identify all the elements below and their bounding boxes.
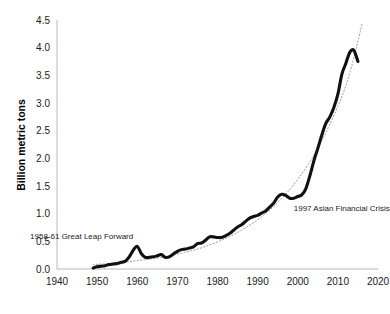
chart-annotation-label: 1997 Asian Financial Crisis (294, 204, 390, 213)
x-tick-label: 1950 (86, 276, 109, 287)
y-tick-label: 0.0 (36, 264, 50, 275)
y-tick-label: 1.0 (36, 208, 50, 219)
y-tick-label: 1.5 (36, 181, 50, 192)
x-tick-label: 1940 (46, 276, 69, 287)
x-tick-label: 1970 (166, 276, 189, 287)
chart-annotation-label: 1958-61 Great Leap Forward (30, 232, 133, 241)
x-tick-label: 1960 (126, 276, 149, 287)
x-axis-tick-labels: 194019501960197019801990200020102020 (46, 276, 390, 287)
x-tick-label: 1980 (206, 276, 229, 287)
x-tick-label: 2020 (367, 276, 390, 287)
x-tick-label: 2010 (327, 276, 350, 287)
emissions-line-chart: 0.00.51.01.52.02.53.03.54.04.5 194019501… (0, 0, 390, 314)
y-tick-label: 4.5 (36, 15, 50, 26)
chart-canvas: 0.00.51.01.52.02.53.03.54.04.5 194019501… (0, 0, 390, 314)
y-tick-label: 4.0 (36, 42, 50, 53)
y-tick-label: 2.5 (36, 125, 50, 136)
y-tick-label: 3.0 (36, 98, 50, 109)
x-tick-label: 2000 (287, 276, 310, 287)
y-tick-label: 2.0 (36, 153, 50, 164)
chart-background (0, 0, 390, 314)
y-tick-label: 3.5 (36, 70, 50, 81)
y-axis-title: Billion metric tons (15, 99, 27, 191)
x-tick-label: 1990 (247, 276, 270, 287)
